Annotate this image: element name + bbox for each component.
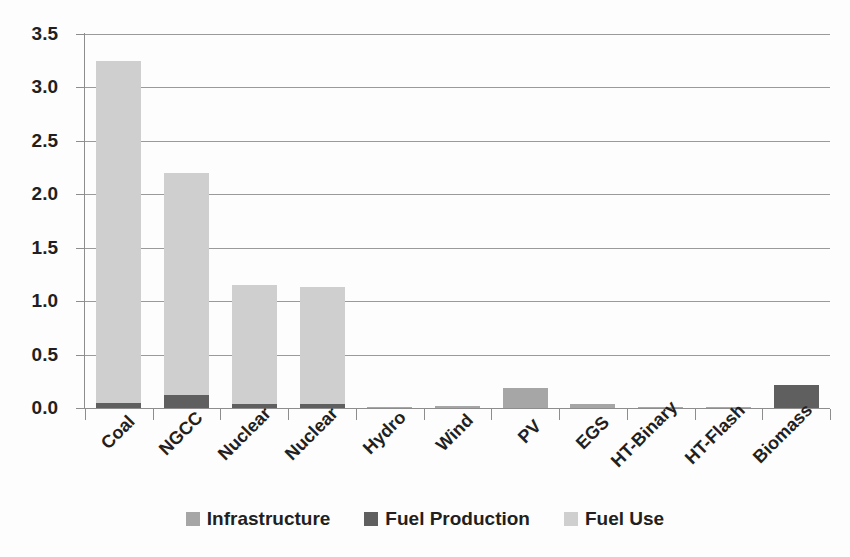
y-axis-tick <box>76 34 84 35</box>
x-axis-label: PV <box>514 416 546 448</box>
legend-item[interactable]: Infrastructure <box>186 508 331 530</box>
bar-group[interactable] <box>503 388 548 408</box>
bar-segment-fuel-use[interactable] <box>232 285 277 404</box>
x-axis-label: HT-Binary <box>607 397 682 472</box>
legend-label: Infrastructure <box>207 508 331 530</box>
legend-item[interactable]: Fuel Use <box>564 508 664 530</box>
y-axis-tick-label: 1.0 <box>6 290 58 312</box>
bar-group[interactable] <box>96 61 141 408</box>
chart-legend: InfrastructureFuel ProductionFuel Use <box>0 508 850 530</box>
y-axis-line <box>84 33 85 409</box>
bar-group[interactable] <box>300 287 345 408</box>
y-axis-tick-label: 1.5 <box>6 237 58 259</box>
legend-swatch-icon <box>564 512 578 526</box>
y-axis-tick <box>76 87 84 88</box>
bars-layer <box>85 34 830 408</box>
y-axis-tick-label: 2.5 <box>6 130 58 152</box>
x-axis-label: Wind <box>432 410 478 456</box>
y-axis-tick <box>76 248 84 249</box>
bar-segment-fuel-use[interactable] <box>96 61 141 403</box>
bar-group[interactable] <box>164 173 209 408</box>
x-axis-label: Hydro <box>359 407 411 459</box>
legend-label: Fuel Production <box>385 508 530 530</box>
x-axis-label: Coal <box>97 412 139 454</box>
legend-label: Fuel Use <box>585 508 664 530</box>
y-axis-tick-label: 2.0 <box>6 183 58 205</box>
x-axis-labels: CoalNGCCNuclearNuclearHydroWindPVEGSHT-B… <box>0 408 850 508</box>
bar-group[interactable] <box>232 285 277 408</box>
legend-item[interactable]: Fuel Production <box>364 508 530 530</box>
bar-segment-fuel-production[interactable] <box>164 395 209 408</box>
y-axis-tick <box>76 141 84 142</box>
y-axis-tick <box>76 194 84 195</box>
x-axis-label: HT-Flash <box>681 400 750 469</box>
bar-chart: 0.00.51.01.52.02.53.03.5 CoalNGCCNuclear… <box>0 0 850 557</box>
plot-area <box>85 34 830 408</box>
bar-segment-fuel-use[interactable] <box>164 173 209 395</box>
x-axis-label: Nuclear <box>281 403 343 465</box>
x-axis-label: Biomass <box>749 400 817 468</box>
y-axis-tick-label: 3.5 <box>6 23 58 45</box>
y-axis-tick-label: 3.0 <box>6 76 58 98</box>
x-axis-label: EGS <box>572 412 614 454</box>
bar-segment-infrastructure[interactable] <box>503 388 548 408</box>
x-axis-label: Nuclear <box>214 403 276 465</box>
legend-swatch-icon <box>186 512 200 526</box>
bar-segment-fuel-use[interactable] <box>300 287 345 405</box>
legend-swatch-icon <box>364 512 378 526</box>
y-axis-tick-label: 0.5 <box>6 344 58 366</box>
x-axis-label: NGCC <box>155 407 207 459</box>
y-axis-tick <box>76 355 84 356</box>
y-axis-tick <box>76 301 84 302</box>
